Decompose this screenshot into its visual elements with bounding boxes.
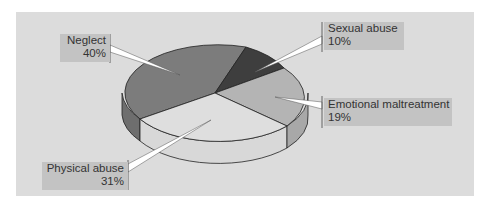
label-physical-pct: 31% xyxy=(44,175,124,188)
label-sexual-abuse: Sexual abuse 10% xyxy=(328,22,408,48)
label-emotional-pct: 19% xyxy=(328,111,458,124)
label-physical-name: Physical abuse xyxy=(44,162,124,175)
label-emotional-maltreatment: Emotional maltreatment 19% xyxy=(328,98,458,124)
label-neglect-name: Neglect xyxy=(60,34,106,47)
label-neglect: Neglect 40% xyxy=(60,34,106,60)
label-neglect-pct: 40% xyxy=(60,47,106,60)
label-sexual-name: Sexual abuse xyxy=(328,22,408,35)
label-emotional-name: Emotional maltreatment xyxy=(328,98,458,111)
label-physical-abuse: Physical abuse 31% xyxy=(44,162,124,188)
label-sexual-pct: 10% xyxy=(328,35,408,48)
